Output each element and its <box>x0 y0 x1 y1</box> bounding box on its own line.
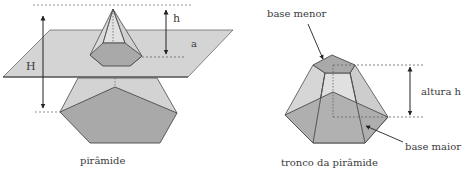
frustum-caption: tronco da pirâmide <box>281 157 378 168</box>
small-base-label: base menor <box>267 8 326 19</box>
plane-label: a <box>191 38 197 49</box>
small-base-pointer <box>308 24 323 59</box>
cut-height-label: h <box>173 12 180 25</box>
pyramid-figure: H h a pirâmide <box>3 5 233 166</box>
large-base-label: base maior <box>405 141 461 152</box>
frustum-figure: base menor altura h base maior tronco da… <box>267 8 462 168</box>
pyramid-caption: pirâmide <box>80 155 125 166</box>
diagram: H h a pirâmide base menor altura h base … <box>0 0 465 173</box>
height-label: altura h <box>421 86 462 97</box>
total-height-label: H <box>26 60 36 73</box>
